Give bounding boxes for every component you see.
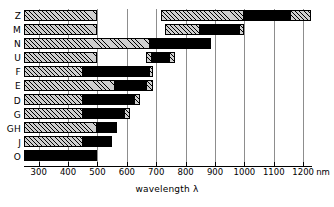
chart-row: U [24,51,312,65]
bar-segment [83,66,149,77]
bar-segment [134,94,140,105]
x-axis-tick-label: 600 [119,168,135,177]
row-label-j: J [18,138,21,147]
bar-segment [24,108,83,119]
bar-segment [24,122,97,133]
row-label-n: N [14,40,21,49]
chart-row: E [24,79,312,93]
bar-segment [152,52,170,63]
x-axis-tick-label: 700 [148,168,164,177]
bar-segment [149,66,153,77]
bar-segment [161,10,245,21]
row-label-g: G [14,110,21,119]
chart-row: N [24,37,312,51]
bar-segment [124,108,130,119]
bar-segment [24,38,150,49]
plot-area: ZMNUFEDGGHJO [24,9,312,164]
row-label-u: U [14,54,21,63]
x-axis-tick-label: 800 [178,168,194,177]
chart-row: D [24,94,312,108]
bar-segment [83,136,112,147]
x-axis-tick-label: 1200 [292,168,314,177]
x-axis-tick-label: 400 [60,168,76,177]
bar-segment [150,38,210,49]
bar-segment [165,24,200,35]
row-label-gh: GH [7,124,21,133]
bar-segment [24,24,97,35]
row-label-m: M [13,26,21,35]
row-label-f: F [16,68,21,77]
bar-segment [83,94,134,105]
x-axis-tick-label: 900 [207,168,223,177]
wavelength-range-chart: ZMNUFEDGGHJO 300400500600700800900100011… [0,0,334,207]
bar-segment [200,24,238,35]
chart-row: M [24,23,312,37]
x-axis-tick-label: 1000 [234,168,256,177]
row-label-o: O [14,152,21,161]
chart-row: F [24,65,312,79]
chart-row: J [24,136,312,150]
bar-segment [24,94,83,105]
row-label-e: E [15,82,21,91]
chart-row: GH [24,122,312,136]
bar-segment [169,52,175,63]
x-axis-tick-label: 500 [89,168,105,177]
bar-segment [24,136,83,147]
bar-segment [83,108,124,119]
chart-row: Z [24,9,312,23]
bar-segment [290,10,311,21]
bar-segment [115,80,146,91]
bar-segment [97,122,116,133]
row-label-z: Z [15,12,21,21]
chart-row: G [24,108,312,122]
bar-segment [239,24,245,35]
x-axis-tick-label: 300 [31,168,47,177]
bar-segment [24,80,115,91]
x-axis-tick-label: 1100 [263,168,285,177]
bar-segment [24,52,97,63]
bar-segment [24,66,83,77]
x-axis-title: wavelength λ [0,184,334,194]
bar-segment [244,10,290,21]
axis-unit-label: nm [316,168,330,177]
bar-segment [24,150,97,161]
bar-segment [146,80,153,91]
row-label-d: D [14,96,21,105]
bar-segment [24,10,97,21]
